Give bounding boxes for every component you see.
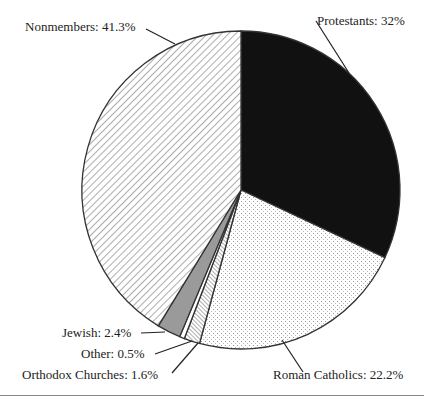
pie-slices — [82, 31, 400, 349]
label-other: Other: 0.5% — [81, 347, 145, 360]
bottom-divider — [0, 395, 424, 396]
label-jewish: Jewish: 2.4% — [62, 326, 131, 339]
leader-line — [155, 341, 192, 354]
label-nonmembers: Nonmembers: 41.3% — [25, 20, 135, 33]
label-protestants: Protestants: 32% — [317, 14, 405, 27]
leader-line — [172, 343, 198, 373]
label-roman-catholics: Roman Catholics: 22.2% — [273, 368, 403, 381]
leader-line — [146, 29, 175, 44]
pie-chart — [0, 0, 424, 400]
label-orthodox: Orthodox Churches: 1.6% — [22, 368, 158, 381]
leader-line — [141, 332, 165, 333]
